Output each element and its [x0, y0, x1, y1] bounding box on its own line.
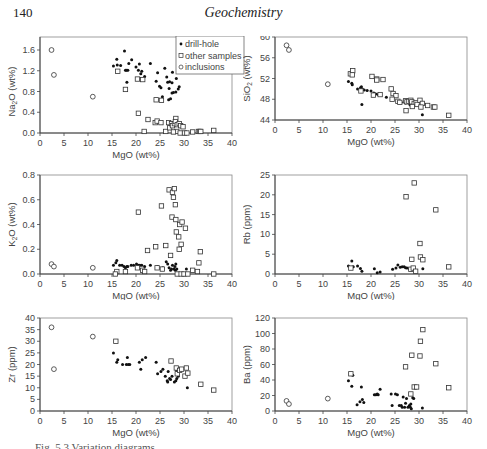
- y-tick-label: 60: [260, 360, 270, 370]
- x-tick-label: 10: [83, 416, 93, 426]
- drill-hole-point: [138, 63, 141, 66]
- other-sample-point: [168, 253, 172, 257]
- x-tick-label: 0: [37, 279, 42, 289]
- drill-hole-point: [140, 264, 143, 267]
- y-axis-label: Ba (ppm): [243, 345, 252, 384]
- other-sample-point: [155, 266, 159, 270]
- drill-hole-point: [168, 87, 171, 90]
- chart-legend: drill-holeother samplesinclusions: [176, 36, 244, 74]
- y-tick-label: 15: [260, 210, 270, 220]
- inclusion-point: [287, 48, 292, 53]
- inclusion-point: [49, 48, 54, 53]
- x-tick-label: 40: [227, 138, 237, 148]
- x-tick-label: 35: [203, 416, 213, 426]
- drill-hole-point: [163, 67, 166, 70]
- drill-hole-point: [174, 263, 177, 266]
- drill-hole-point: [360, 103, 363, 106]
- drill-hole-point: [155, 361, 158, 364]
- y-tick-label: 48: [260, 94, 270, 104]
- drill-hole-point: [412, 397, 415, 400]
- other-sample-point: [421, 258, 425, 262]
- y-tick-label: 0.2: [22, 244, 35, 254]
- drill-hole-point: [366, 89, 369, 92]
- x-axis-label: MgO (wt%): [347, 427, 395, 438]
- x-tick-label: 30: [414, 416, 424, 426]
- x-tick-label: 5: [296, 416, 301, 426]
- other-sample-point: [414, 385, 418, 389]
- x-tick-label: 40: [462, 125, 472, 135]
- drill-hole-point: [379, 271, 382, 274]
- y-tick-label: 10: [260, 229, 270, 239]
- x-tick-label: 20: [131, 138, 141, 148]
- drill-hole-point: [385, 96, 388, 99]
- drill-hole-point: [115, 58, 118, 61]
- other-sample-point: [179, 367, 183, 371]
- x-tick-label: 25: [390, 416, 400, 426]
- drill-hole-point: [359, 267, 362, 270]
- other-sample-point: [349, 372, 353, 376]
- chart-k2o: 05101520253035400.00.20.40.60.8MgO (wt%)…: [0, 170, 245, 300]
- other-sample-point: [425, 103, 429, 107]
- other-sample-point: [198, 250, 202, 254]
- x-tick-label: 20: [366, 416, 376, 426]
- drill-hole-point: [360, 385, 363, 388]
- drill-hole-point: [156, 372, 159, 375]
- x-tick-label: 0: [37, 416, 42, 426]
- x-tick-label: 30: [179, 416, 189, 426]
- other-sample-point: [142, 269, 146, 273]
- other-sample-point: [136, 111, 140, 115]
- drill-hole-point: [140, 70, 143, 73]
- drill-hole-point: [116, 358, 119, 361]
- y-tick-label: 0.6: [22, 195, 35, 205]
- x-tick-label: 15: [342, 416, 352, 426]
- other-sample-point: [178, 131, 182, 135]
- y-tick-label: 1.6: [22, 45, 35, 55]
- x-tick-label: 0: [37, 138, 42, 148]
- drill-hole-point: [403, 406, 406, 409]
- drill-hole-point: [166, 380, 169, 383]
- other-sample-point: [123, 87, 127, 91]
- other-sample-point: [447, 113, 451, 117]
- x-tick-label: 40: [227, 279, 237, 289]
- x-tick-label: 25: [155, 416, 165, 426]
- y-tick-label: 0.0: [22, 128, 35, 138]
- y-tick-label: 10: [25, 383, 35, 393]
- x-tick-label: 10: [83, 279, 93, 289]
- drill-hole-point: [356, 403, 359, 406]
- y-tick-label: 0: [265, 406, 270, 416]
- x-tick-label: 0: [272, 416, 277, 426]
- x-tick-label: 10: [318, 125, 328, 135]
- x-tick-label: 35: [203, 138, 213, 148]
- other-sample-point: [159, 98, 163, 102]
- x-tick-label: 40: [462, 416, 472, 426]
- y-tick-label: 15: [25, 371, 35, 381]
- drill-hole-point: [138, 361, 141, 364]
- drill-hole-point: [169, 378, 172, 381]
- x-tick-label: 20: [131, 279, 141, 289]
- other-sample-point: [410, 257, 414, 261]
- drill-hole-point: [373, 267, 376, 270]
- other-sample-point: [404, 108, 408, 112]
- chart-na2o: 05101520253035400.00.40.81.21.6MgO (wt%)…: [0, 36, 245, 160]
- drill-hole-point: [165, 75, 168, 78]
- figure-caption: Fig. 5.3 Variation diagrams ...: [35, 441, 475, 449]
- drill-hole-point: [356, 265, 359, 268]
- other-sample-point: [141, 77, 145, 81]
- drill-hole-point: [347, 80, 350, 83]
- drill-hole-point: [362, 401, 365, 404]
- drill-hole-point: [410, 407, 413, 410]
- drill-hole-point: [128, 363, 131, 366]
- x-axis-label: MgO (wt%): [112, 149, 160, 160]
- x-tick-label: 35: [203, 279, 213, 289]
- drill-hole-point: [171, 81, 174, 84]
- y-tick-label: 40: [260, 375, 270, 385]
- drill-hole-point: [390, 392, 393, 395]
- x-tick-label: 30: [414, 125, 424, 135]
- drill-hole-point: [144, 356, 147, 359]
- x-tick-label: 30: [414, 279, 424, 289]
- inclusion-point: [52, 264, 57, 269]
- drill-hole-point: [126, 356, 129, 359]
- y-tick-label: 0.8: [22, 170, 35, 180]
- drill-hole-point: [112, 65, 115, 68]
- other-sample-point: [146, 117, 150, 121]
